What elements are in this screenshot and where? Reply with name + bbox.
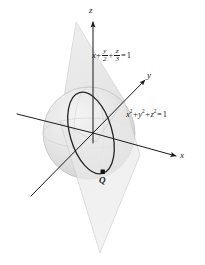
plane-eq-y-denominator: 2	[102, 55, 108, 63]
plane-eq-z-fraction: z3	[114, 48, 120, 63]
plane-eq-rhs: 1	[126, 50, 131, 60]
z-axis-label: z	[89, 6, 93, 15]
plane-equation-label: x+y2+z3=1	[92, 48, 131, 63]
sphere-equation-label: x2+y2+z2=1	[126, 110, 167, 119]
y-axis-label: y	[147, 71, 151, 80]
point-q-marker	[101, 170, 105, 174]
plane-eq-z-denominator: 3	[114, 55, 120, 63]
plane-eq-z-numerator: z	[114, 48, 120, 55]
figure-canvas	[0, 0, 205, 265]
plane-eq-y-fraction: y2	[102, 48, 108, 63]
plane-eq-y-numerator: y	[102, 48, 108, 55]
point-q-group	[101, 170, 105, 174]
math-figure-3d-sphere-plane: z y x x+y2+z3=1 x2+y2+z2=1 Q	[0, 0, 205, 265]
plane-eq-plus-1: +	[96, 50, 102, 60]
sphere-eq-rhs: 1	[162, 109, 167, 119]
plane-eq-plus-2: +	[108, 50, 114, 60]
point-q-label: Q	[99, 176, 106, 185]
x-axis-label: x	[180, 151, 184, 160]
